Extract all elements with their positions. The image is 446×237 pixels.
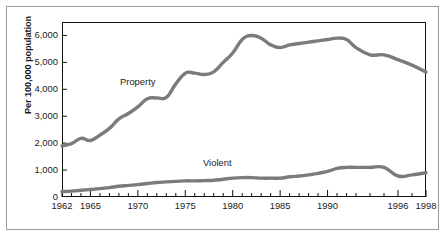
x-tick-label: 1998 xyxy=(396,201,446,211)
series-lines xyxy=(62,35,426,191)
series-line-property xyxy=(62,35,426,145)
series-label-property: Property xyxy=(120,77,155,87)
chart-figure: Per 100,000 population 01,0002,0003,0004… xyxy=(0,0,446,237)
x-tick-label: 1990 xyxy=(298,201,358,211)
series-label-violent: Violent xyxy=(203,158,232,168)
x-axis-ticks xyxy=(62,190,426,197)
series-line-violent xyxy=(62,167,426,192)
y-axis-ticks xyxy=(62,35,67,170)
